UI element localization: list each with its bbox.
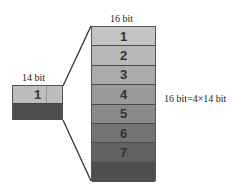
small-block-14bit: 1	[12, 85, 63, 120]
band-6: 6	[92, 124, 155, 143]
small-block-segment: 1	[13, 86, 62, 104]
band-label: 1	[120, 29, 127, 44]
large-block-title: 16 bit	[110, 13, 133, 24]
band-label: 3	[120, 67, 127, 82]
segment-label: 1	[34, 87, 41, 102]
band-3: 3	[92, 66, 155, 85]
band-5: 5	[92, 105, 155, 124]
segment-divider	[46, 86, 47, 103]
band-label: 2	[120, 48, 127, 63]
band-2: 2	[92, 46, 155, 65]
band-4: 4	[92, 85, 155, 104]
band-label: 6	[120, 126, 127, 141]
band-label: 7	[120, 145, 127, 160]
small-block-dark-region	[13, 104, 62, 120]
equation-label: 16 bit=4×14 bit	[164, 93, 226, 104]
band-8	[92, 163, 155, 182]
band-7: 7	[92, 143, 155, 162]
band-1: 1	[92, 27, 155, 46]
band-label: 5	[120, 106, 127, 121]
band-label: 4	[120, 87, 127, 102]
small-block-title: 14 bit	[22, 72, 45, 83]
large-block-16bit: 1 2 3 4 5 6 7	[91, 26, 156, 181]
